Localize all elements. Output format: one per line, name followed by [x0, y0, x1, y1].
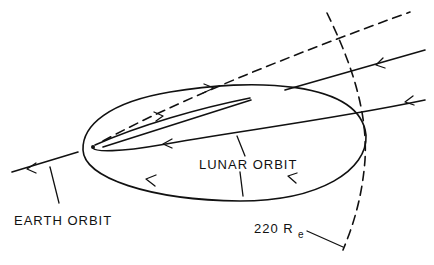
lunar-orbit-leader-upper	[237, 136, 245, 156]
outbound-trajectory-upper	[95, 98, 250, 145]
earth-orbit-line	[12, 152, 78, 172]
earth-orbit-leader	[50, 167, 59, 203]
lunar-orbit-arrow-bottom-left	[146, 175, 156, 186]
lunar-orbit-leader-lower	[240, 172, 243, 196]
earth-orbit-label: EARTH ORBIT	[14, 213, 112, 228]
earth-orbit-arrow	[27, 163, 36, 173]
radius-label: 220 R	[254, 221, 294, 236]
radius-subscript: e	[298, 229, 304, 240]
boundary-arc-220re	[327, 13, 365, 250]
radius-leader	[307, 231, 343, 247]
inbound-trajectory-lower	[93, 100, 425, 151]
lunar-orbit-arrow-bottom-right	[288, 173, 297, 183]
orbit-diagram: LUNAR ORBIT EARTH ORBIT 220 R e	[0, 0, 434, 265]
lunar-orbit-ellipse	[83, 85, 366, 201]
return-trajectory-inner	[103, 100, 251, 147]
dashed-escape-trajectory	[103, 12, 410, 141]
lunar-orbit-label: LUNAR ORBIT	[199, 157, 297, 172]
